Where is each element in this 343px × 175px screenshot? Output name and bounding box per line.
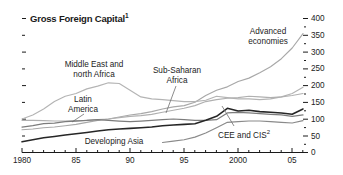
series-label-developing-asia-text: Developing Asia [85,137,144,146]
series-label-advanced-economies-line2: economies [228,37,308,47]
y-tick-label-100: 100 [311,115,325,124]
x-tick-label-2000: 2000 [224,156,252,165]
x-tick-label-95: 95 [174,156,194,165]
series-label-cee-and-cis: CEE and CIS2 [204,128,284,140]
series-label-advanced-economies-line1: Advanced [228,27,308,37]
series-label-sub-saharan-africa: Sub-Saharan Africa [138,66,216,85]
y-tick-label-350: 350 [311,31,325,40]
x-tick-label-1980: 1980 [8,156,36,165]
series-label-developing-asia: Developing Asia [74,137,154,147]
series-label-advanced-economies: Advanced economies [228,27,308,46]
series-label-sub-saharan-africa-line2: Africa [138,76,216,86]
y-tick-label-300: 300 [311,48,325,57]
series-label-cee-and-cis-footnote-marker: 2 [267,129,270,135]
y-tick-label-150: 150 [311,98,325,107]
x-tick-label-05: 05 [282,156,302,165]
x-tick-label-90: 90 [120,156,140,165]
series-label-cee-and-cis-text: CEE and CIS [218,131,267,140]
series-label-latin-america: Latin America [52,95,114,114]
x-axis-ticks [22,148,303,153]
y-tick-label-0: 0 [311,148,316,157]
series-label-middle-east-north-africa-line2: north Africa [46,70,142,80]
y-tick-label-250: 250 [311,64,325,73]
series-label-latin-america-line2: America [52,105,114,115]
series-layer [22,34,303,143]
chart-container: Gross Foreign Capital1 [0,0,343,175]
series-label-sub-saharan-africa-line1: Sub-Saharan [138,66,216,76]
series-label-latin-america-line1: Latin [52,95,114,105]
y-tick-label-50: 50 [311,132,320,141]
y-tick-label-200: 200 [311,81,325,90]
series-label-middle-east-north-africa-line1: Middle East and [46,60,142,70]
x-tick-label-85: 85 [66,156,86,165]
series-label-middle-east-north-africa: Middle East and north Africa [46,60,142,79]
series-line-latin-america [22,112,303,127]
y-tick-label-400: 400 [311,14,325,23]
